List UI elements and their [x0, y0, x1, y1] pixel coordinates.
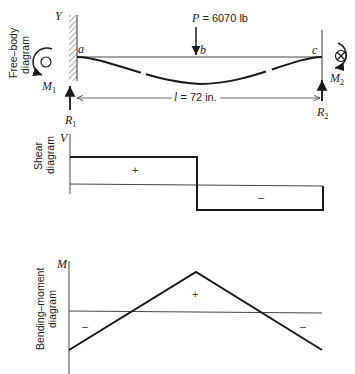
span-label: l = 72 in.	[174, 90, 217, 104]
wall-label-y: Y	[55, 9, 63, 23]
clockwise-moment-cross-icon	[335, 43, 347, 68]
moment-label-line2: diagram	[46, 290, 58, 328]
shear-label-line2: diagram	[44, 136, 56, 174]
shear-negative-sign: –	[258, 191, 265, 203]
moment-m1-label: M1	[41, 79, 56, 95]
point-a-label: a	[78, 42, 84, 56]
free-body-label-line2: diagram	[19, 36, 31, 74]
left-wall-hatch	[69, 15, 77, 81]
deflection-curve	[77, 57, 322, 84]
point-b-label: b	[200, 43, 206, 57]
moment-label-line1: Bending–moment	[34, 268, 46, 350]
reaction-r1-label: R1	[64, 113, 76, 129]
shear-curve	[70, 157, 323, 210]
beam-diagram: Free–body diagram Y a b c P = 6070 lb M1	[0, 0, 355, 374]
moment-negative-sign-left: –	[82, 320, 89, 332]
curve-gap-left	[141, 72, 146, 74]
shear-diagram: Shear diagram V + –	[32, 131, 323, 210]
counterclockwise-moment-circle-icon	[33, 48, 52, 75]
free-body-diagram: Free–body diagram Y a b c P = 6070 lb M1	[7, 9, 347, 129]
moment-negative-sign-right: –	[300, 320, 307, 332]
moment-zero-line	[69, 311, 322, 313]
load-label: P = 6070 lb	[191, 11, 248, 25]
point-c-label: c	[312, 43, 318, 57]
moment-axis-label-m: M	[56, 257, 68, 271]
shear-label-line1: Shear	[32, 141, 44, 170]
shear-axis-label-v: V	[60, 131, 69, 145]
reaction-r2-label: R2	[316, 105, 328, 121]
curve-gap-right	[266, 70, 272, 72]
moment-m2-label: M2	[329, 71, 344, 87]
shear-positive-sign: +	[132, 164, 138, 176]
free-body-label-line1: Free–body	[7, 27, 19, 78]
moment-positive-sign: +	[192, 288, 198, 300]
bending-moment-diagram: Bending–moment diagram M + – –	[34, 257, 322, 374]
